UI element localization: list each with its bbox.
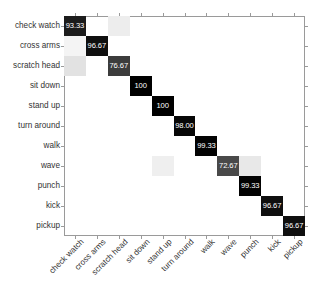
x-axis-tick-top xyxy=(294,13,295,16)
x-axis-tick-top xyxy=(163,13,164,16)
y-axis-tick-right xyxy=(305,46,308,47)
y-axis-label-cross-arms: cross arms xyxy=(20,42,60,50)
x-axis-tick-top xyxy=(75,13,76,16)
x-axis-label-walk: walk xyxy=(200,238,217,255)
y-axis-tick-right xyxy=(305,186,308,187)
y-axis-tick-right xyxy=(305,206,308,207)
x-axis-tick-top xyxy=(141,13,142,16)
y-axis-tick xyxy=(61,46,64,47)
y-axis-tick xyxy=(61,146,64,147)
matrix-cell-value: 96.67 xyxy=(86,36,108,56)
matrix-plot-area: 93.3396.6776.6710010098.0099.3372.6799.3… xyxy=(64,16,305,236)
y-axis-label-pickup: pickup xyxy=(36,222,60,230)
matrix-cell xyxy=(152,156,174,176)
y-axis-tick-right xyxy=(305,166,308,167)
x-axis-label-kick: kick xyxy=(267,238,283,254)
matrix-cell-value: 96.67 xyxy=(261,196,283,216)
y-axis-label-stand-up: stand up xyxy=(29,102,60,110)
x-axis-tick-labels: check watchcross armsscratch headsit dow… xyxy=(64,238,305,288)
y-axis-tick-right xyxy=(305,226,308,227)
y-axis-tick xyxy=(61,186,64,187)
y-axis-tick xyxy=(61,26,64,27)
matrix-cell xyxy=(108,16,130,36)
y-axis-tick xyxy=(61,166,64,167)
y-axis-tick-right xyxy=(305,146,308,147)
matrix-cell-value: 98.00 xyxy=(174,116,196,136)
y-axis-tick-labels: check watchcross armsscratch headsit dow… xyxy=(0,16,64,236)
x-axis-tick-top xyxy=(272,13,273,16)
x-axis-label-punch: punch xyxy=(239,238,261,260)
x-axis-label-pickup: pickup xyxy=(282,238,305,261)
y-axis-label-turn-around: turn around xyxy=(18,122,60,130)
x-axis-tick-top xyxy=(97,13,98,16)
y-axis-tick-right xyxy=(305,86,308,87)
y-axis-tick xyxy=(61,126,64,127)
matrix-cell-value: 76.67 xyxy=(108,56,130,76)
x-axis-tick-top xyxy=(206,13,207,16)
y-axis-label-punch: punch xyxy=(38,182,60,190)
y-axis-label-walk: walk xyxy=(44,142,60,150)
matrix-cell-value: 99.33 xyxy=(195,136,217,156)
y-axis-tick xyxy=(61,226,64,227)
x-axis-tick-top xyxy=(119,13,120,16)
x-axis-label-wave: wave xyxy=(220,238,239,257)
y-axis-tick-right xyxy=(305,106,308,107)
y-axis-tick-right xyxy=(305,126,308,127)
matrix-cell-value: 100 xyxy=(152,96,174,116)
y-axis-tick xyxy=(61,206,64,207)
matrix-cell-value: 96.67 xyxy=(283,216,305,236)
matrix-cell-value: 99.33 xyxy=(239,176,261,196)
matrix-cell-value: 100 xyxy=(130,76,152,96)
y-axis-tick xyxy=(61,86,64,87)
matrix-cell xyxy=(64,36,86,56)
y-axis-label-wave: wave xyxy=(41,162,60,170)
matrix-cell-value: 93.33 xyxy=(64,16,86,36)
y-axis-tick-right xyxy=(305,66,308,67)
axis-spine-top xyxy=(64,16,305,17)
matrix-cell-value: 72.67 xyxy=(217,156,239,176)
y-axis-tick xyxy=(61,106,64,107)
x-axis-tick-top xyxy=(250,13,251,16)
y-axis-tick xyxy=(61,66,64,67)
y-axis-tick-right xyxy=(305,26,308,27)
matrix-cell xyxy=(64,56,86,76)
x-axis-tick-top xyxy=(185,13,186,16)
x-axis-tick-top xyxy=(228,13,229,16)
y-axis-label-scratch-head: scratch head xyxy=(13,62,60,70)
confusion-matrix-figure: check watchcross armsscratch headsit dow… xyxy=(0,0,323,288)
matrix-cell xyxy=(239,156,261,176)
y-axis-label-sit-down: sit down xyxy=(30,82,60,90)
y-axis-label-kick: kick xyxy=(46,202,60,210)
y-axis-label-check-watch: check watch xyxy=(15,22,60,30)
